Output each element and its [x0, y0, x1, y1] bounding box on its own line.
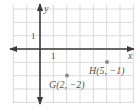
point-g-dot [65, 74, 69, 78]
y-axis-label: y [43, 3, 49, 14]
x-tick-label: 1 [51, 51, 56, 61]
point-h-label: H(5, −1) [88, 65, 125, 77]
point-h-dot [105, 60, 109, 64]
x-axis-label: x [127, 50, 133, 61]
point-g-label: G(2, −2) [49, 79, 85, 91]
coordinate-plane: x y 1 1 G(2, −2) H(5, −1) [0, 0, 140, 110]
y-tick-label: 1 [31, 31, 36, 41]
